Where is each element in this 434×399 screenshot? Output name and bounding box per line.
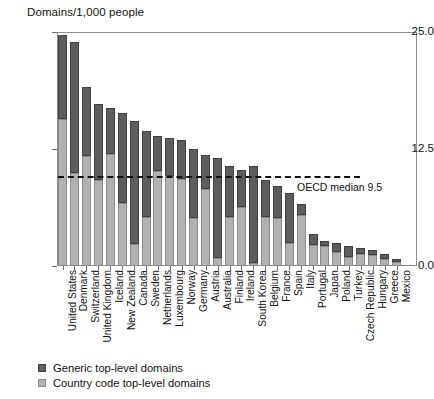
segment-country-code bbox=[94, 180, 103, 266]
segment-country-code bbox=[165, 176, 174, 266]
bar-new-zealand bbox=[118, 113, 127, 266]
segment-generic bbox=[356, 248, 365, 254]
segment-country-code bbox=[213, 258, 222, 266]
segment-generic bbox=[249, 166, 258, 263]
segment-country-code bbox=[356, 254, 365, 266]
segment-country-code bbox=[380, 259, 389, 266]
segment-country-code bbox=[153, 171, 162, 266]
x-label-turkey: Turkey bbox=[353, 270, 364, 301]
segment-generic bbox=[82, 87, 91, 156]
segment-country-code bbox=[106, 154, 115, 266]
segment-country-code bbox=[82, 156, 91, 266]
bar-luxembourg bbox=[165, 138, 174, 266]
x-label-mexico: Mexico bbox=[401, 270, 412, 302]
bar-italy bbox=[297, 204, 306, 266]
bar-canada bbox=[130, 121, 139, 266]
x-axis-labels: United StatesDenmarkSwitzerlandUnited Ki… bbox=[0, 270, 434, 362]
segment-generic bbox=[309, 234, 318, 244]
bar-spain bbox=[285, 193, 294, 266]
bar-australia bbox=[213, 158, 222, 266]
segment-generic bbox=[201, 155, 210, 189]
bar-united-states bbox=[58, 35, 67, 266]
x-label-canada: Canada bbox=[138, 270, 149, 306]
x-label-hungary: Hungary bbox=[377, 270, 388, 309]
x-label-japan: Japan bbox=[329, 270, 340, 298]
bar-finland bbox=[225, 166, 234, 266]
light-gray-swatch-icon bbox=[38, 379, 46, 387]
bar-czech-republic bbox=[356, 248, 365, 266]
segment-generic bbox=[106, 108, 115, 155]
y-tick-mark-2 bbox=[52, 32, 57, 33]
y-tick-mark-1 bbox=[52, 149, 57, 150]
oecd-median-line bbox=[58, 176, 360, 178]
legend-label-country-code: Country code top-level domains bbox=[53, 377, 210, 389]
oecd-median-label: OECD median 9.5 bbox=[297, 181, 382, 193]
y-axis-title: Domains/1,000 people bbox=[27, 6, 144, 18]
segment-country-code bbox=[332, 252, 341, 266]
x-label-spain: Spain bbox=[293, 270, 304, 296]
segment-generic bbox=[130, 121, 139, 244]
segment-country-code bbox=[142, 217, 151, 266]
dark-gray-swatch-icon bbox=[38, 364, 46, 372]
segment-generic bbox=[189, 149, 198, 218]
y-tick-mark-0 bbox=[52, 266, 57, 267]
segment-country-code bbox=[320, 246, 329, 266]
bar-belgium bbox=[261, 180, 270, 266]
segment-generic bbox=[344, 246, 353, 256]
bar-denmark bbox=[70, 42, 79, 266]
bar-austria bbox=[201, 155, 210, 266]
domains-per-1000-people-chart: Domains/1,000 people 0.0 12.5 25.0 OECD … bbox=[0, 0, 434, 399]
segment-generic bbox=[177, 140, 186, 179]
segment-country-code bbox=[201, 189, 210, 266]
segment-country-code bbox=[58, 119, 67, 266]
x-label-sweden: Sweden bbox=[150, 270, 161, 307]
segment-generic bbox=[225, 166, 234, 216]
segment-generic bbox=[58, 35, 67, 119]
x-label-czech-republic: Czech Republic bbox=[365, 270, 376, 341]
bar-norway bbox=[177, 140, 186, 266]
segment-generic bbox=[380, 254, 389, 259]
x-label-germany: Germany bbox=[198, 270, 209, 312]
segment-generic bbox=[332, 243, 341, 252]
segment-generic bbox=[320, 241, 329, 247]
segment-country-code bbox=[225, 217, 234, 266]
x-label-denmark: Denmark bbox=[78, 270, 89, 311]
segment-generic bbox=[273, 186, 282, 219]
x-label-netherlands: Netherlands bbox=[162, 270, 173, 325]
x-label-ireland: Ireland bbox=[245, 270, 256, 301]
bar-iceland bbox=[106, 108, 115, 266]
bar-japan bbox=[320, 241, 329, 266]
segment-generic bbox=[261, 180, 270, 216]
x-label-greece: Greece bbox=[389, 270, 400, 303]
bar-germany bbox=[189, 149, 198, 266]
legend-item-country-code: Country code top-level domains bbox=[38, 377, 210, 389]
x-label-portugal: Portugal bbox=[317, 270, 328, 308]
chart-legend: Generic top-level domains Country code t… bbox=[38, 362, 210, 392]
segment-country-code bbox=[177, 179, 186, 266]
segment-generic bbox=[285, 193, 294, 242]
segment-country-code bbox=[344, 257, 353, 266]
x-label-poland: Poland bbox=[341, 270, 352, 302]
bar-turkey bbox=[344, 246, 353, 266]
x-label-south-korea: South Korea bbox=[257, 270, 268, 327]
bar-south-korea bbox=[249, 166, 258, 266]
segment-country-code bbox=[70, 173, 79, 266]
segment-generic bbox=[70, 42, 79, 172]
x-label-norway: Norway bbox=[186, 270, 197, 305]
x-label-finland: Finland bbox=[234, 270, 245, 303]
segment-country-code bbox=[237, 207, 246, 266]
bar-portugal bbox=[309, 234, 318, 266]
bar-greece bbox=[380, 254, 389, 266]
segment-country-code bbox=[118, 203, 127, 266]
bar-ireland bbox=[237, 170, 246, 266]
segment-generic bbox=[153, 136, 162, 170]
segment-country-code bbox=[285, 243, 294, 266]
bar-france bbox=[273, 186, 282, 266]
x-label-austria: Austria bbox=[210, 270, 221, 302]
x-label-luxembourg: Luxembourg bbox=[174, 270, 185, 327]
bar-poland bbox=[332, 243, 341, 266]
legend-item-generic: Generic top-level domains bbox=[38, 362, 210, 374]
x-label-france: France bbox=[281, 270, 292, 302]
bar-series-layer bbox=[58, 33, 416, 266]
segment-generic bbox=[142, 131, 151, 217]
